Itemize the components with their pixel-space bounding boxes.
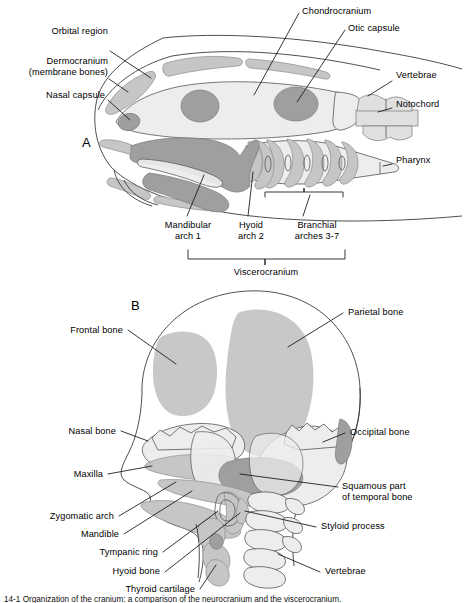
label-nasal-bone: Nasal bone — [0, 426, 116, 437]
panel-a-letter: A — [82, 135, 91, 150]
label-vertebrae-b: Vertebrae — [325, 566, 366, 577]
cervical-vertebrae — [244, 492, 305, 588]
label-chondrocranium: Chondrocranium — [302, 6, 371, 17]
label-nasal-capsule: Nasal capsule — [0, 90, 105, 101]
panel-a-artwork — [95, 35, 462, 221]
label-vertebrae: Vertebrae — [396, 70, 437, 81]
label-zygomatic-arch: Zygomatic arch — [0, 511, 114, 522]
label-branchial-arches-line1: Branchial — [297, 220, 336, 230]
label-hyoid-arch-line2: arch 2 — [238, 231, 264, 241]
label-mandible: Mandible — [0, 529, 119, 540]
label-mandibular-arch-line1: Mandibular — [165, 220, 211, 230]
figure-caption: 14-1 Organization of the cranium: a comp… — [4, 595, 466, 603]
label-squamous-temporal-line2: of temporal bone — [342, 492, 413, 502]
panel-b-artwork — [121, 291, 360, 588]
label-branchial-arches: Branchial arches 3-7 — [278, 220, 356, 241]
label-parietal-bone: Parietal bone — [348, 307, 403, 318]
label-thyroid-cartilage: Thyroid cartilage — [0, 584, 195, 595]
label-notochord: Notochord — [396, 99, 439, 110]
label-dermocranium-line2: (membrane bones) — [29, 67, 108, 77]
branchial-arch-bracket — [265, 188, 343, 197]
label-viscerocranium: Viscerocranium — [206, 267, 326, 278]
label-hyoid-bone: Hyoid bone — [0, 566, 160, 577]
label-hyoid-arch: Hyoid arch 2 — [228, 220, 274, 241]
label-tympanic-ring: Tympanic ring — [0, 547, 158, 558]
viscerocranium-bracket — [188, 250, 345, 265]
label-squamous-temporal-line1: Squamous part — [342, 481, 406, 491]
label-hyoid-arch-line1: Hyoid — [239, 220, 263, 230]
label-maxilla: Maxilla — [0, 469, 103, 480]
label-pharynx: Pharynx — [396, 155, 430, 166]
label-frontal-bone: Frontal bone — [0, 325, 123, 336]
label-dermocranium: Dermocranium (membrane bones) — [0, 56, 108, 77]
label-otic-capsule: Otic capsule — [348, 23, 400, 34]
label-dermocranium-line1: Dermocranium — [47, 56, 108, 66]
label-occipital-bone: Occipital bone — [350, 427, 410, 438]
label-orbital-region: Orbital region — [0, 26, 108, 37]
label-mandibular-arch: Mandibular arch 1 — [148, 220, 228, 241]
panel-b-letter: B — [131, 298, 140, 313]
label-styloid-process: Styloid process — [321, 521, 385, 532]
anatomy-figure: .ol { fill:none; stroke:#3b3b3b; stroke-… — [0, 0, 469, 603]
label-mandibular-arch-line2: arch 1 — [175, 231, 201, 241]
label-branchial-arches-line2: arches 3-7 — [295, 231, 339, 241]
label-squamous-temporal: Squamous part of temporal bone — [342, 481, 413, 502]
